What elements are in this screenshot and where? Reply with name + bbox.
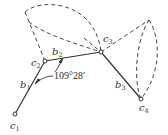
label-c3: c3 — [103, 33, 113, 46]
atom-c1 — [13, 112, 17, 116]
atom-c3 — [99, 50, 103, 54]
arrowhead-b1 — [35, 79, 40, 84]
label-b2: b2 — [52, 46, 63, 59]
carbon-chain-diagram: c1 c2 c3 c4 b1 b2 b3 109°28′ — [0, 0, 168, 135]
label-c1: c1 — [10, 120, 20, 133]
angle-arrow-b1 — [37, 76, 53, 82]
bond-angle-label: 109°28′ — [54, 70, 85, 81]
label-c2: c2 — [31, 57, 41, 70]
atom-c4 — [139, 97, 143, 101]
right-cone-lobe-left — [137, 20, 149, 99]
left-cone-outline — [25, 12, 45, 61]
atom-c2 — [43, 59, 47, 63]
right-cone-lobe-right — [141, 20, 157, 99]
label-c4: c4 — [139, 102, 149, 115]
left-cone-arc — [25, 5, 101, 52]
label-b1: b1 — [20, 79, 31, 92]
label-b3: b3 — [115, 79, 126, 92]
rotation-cones — [25, 5, 157, 99]
